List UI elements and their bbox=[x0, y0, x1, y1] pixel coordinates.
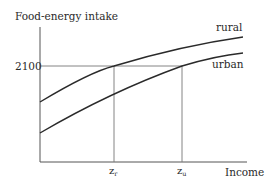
zr-sub: r bbox=[114, 170, 118, 178]
rural-label: rural bbox=[216, 21, 243, 33]
y-tick-2100: 2100 bbox=[15, 60, 42, 72]
urban-label: urban bbox=[212, 58, 244, 70]
zu-sub: u bbox=[182, 170, 186, 178]
y-axis-label: Food-energy intake bbox=[15, 10, 118, 22]
food-energy-chart: Food-energy intake 2100 rural urban Inco… bbox=[0, 0, 268, 184]
x-tick-zr: zr bbox=[109, 165, 118, 178]
x-tick-zu: zu bbox=[177, 165, 186, 178]
x-axis-label: Income bbox=[225, 166, 264, 178]
